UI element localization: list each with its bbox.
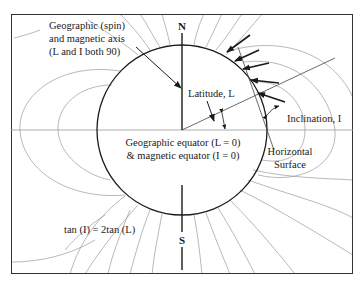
inclination-angle-arc bbox=[267, 106, 279, 115]
latitude-label: Latitude, L bbox=[188, 88, 235, 99]
latitude-angle-arrow bbox=[222, 113, 225, 129]
axis-label-pointer bbox=[136, 47, 181, 88]
horizontal-surface-label-line1: Horizontal bbox=[268, 146, 313, 157]
horizontal-surface-label-line2: Surface bbox=[274, 159, 306, 170]
equator-label-line2: & magnetic equator (I = 0) bbox=[127, 150, 240, 162]
axis-label-line3: (L and I both 90) bbox=[49, 46, 121, 58]
axis-label-line1: Geographic (spin) bbox=[49, 20, 126, 32]
inclination-label: Inclination, I bbox=[287, 113, 342, 124]
field-vector-arrows bbox=[227, 35, 285, 102]
axis-label-line2: and magnetic axis bbox=[49, 33, 125, 44]
geomagnetic-diagram: N S Geographic (spin) and magnetic axis … bbox=[0, 0, 363, 289]
equator-label-line1: Geographic equator (L = 0) bbox=[125, 137, 241, 149]
south-pole-label: S bbox=[179, 234, 185, 246]
inclination-formula: tan (I) = 2tan (L) bbox=[64, 224, 136, 236]
north-pole-label: N bbox=[178, 20, 186, 32]
